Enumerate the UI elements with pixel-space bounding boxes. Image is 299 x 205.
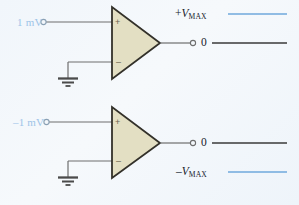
- upper-output-terminal-circle: [190, 40, 195, 45]
- upper-rail-label: +VMAX: [175, 8, 207, 20]
- lower-rail-label: –VMAX: [176, 166, 207, 178]
- lower-source-label: –1 mV: [13, 117, 44, 128]
- comparator-saturation-figure: + – + – 1 mV –1 mV +VMAX –VMAX 0 0: [0, 0, 299, 205]
- upper-inverting-minus-sign: –: [116, 58, 121, 67]
- lower-input-terminal-circle: [44, 119, 49, 124]
- upper-output-label: 0: [201, 37, 207, 49]
- upper-source-label: 1 mV: [17, 17, 43, 28]
- lower-output-label: 0: [201, 137, 207, 149]
- upper-ground-icon: [58, 79, 78, 87]
- upper-rail-symbol: V: [182, 7, 189, 19]
- upper-noninverting-plus-sign: +: [115, 18, 120, 27]
- lower-rail-symbol: V: [182, 165, 189, 177]
- lower-noninverting-plus-sign: +: [115, 118, 120, 127]
- lower-inverting-minus-sign: –: [116, 157, 121, 166]
- lower-rail-subscript: MAX: [189, 170, 207, 179]
- lower-output-terminal-circle: [190, 140, 195, 145]
- circuit-canvas: [0, 0, 299, 205]
- lower-ground-icon: [58, 178, 78, 186]
- upper-rail-subscript: MAX: [189, 12, 207, 21]
